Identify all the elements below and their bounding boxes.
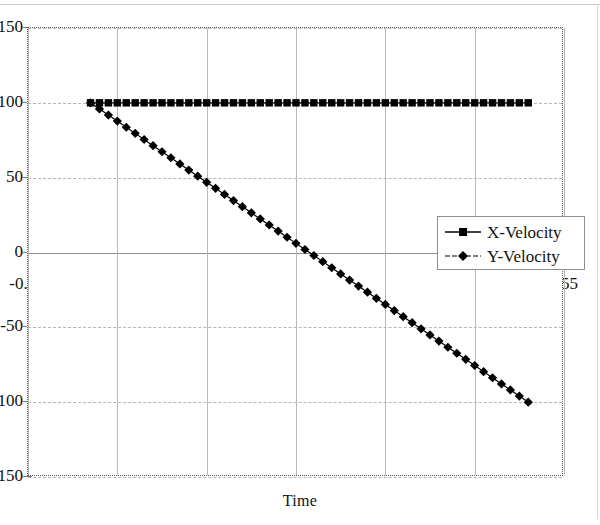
series-marker-square [105,99,112,106]
series-marker-diamond [122,123,131,132]
legend-marker-diamond-icon [443,248,483,264]
series-marker-diamond [408,318,417,327]
series-marker-diamond [300,245,309,254]
series-marker-square [471,99,478,106]
series-marker-square [114,99,121,106]
series-marker-diamond [184,165,193,174]
series-marker-square [257,99,264,106]
series-marker-square [391,99,398,106]
series-marker-diamond [345,275,354,284]
series-marker-diamond [256,214,265,223]
series-marker-square [337,99,344,106]
series-marker-diamond [461,355,470,364]
series-marker-square [132,99,139,106]
series-marker-diamond [479,367,488,376]
series-marker-diamond [336,269,345,278]
series-marker-diamond [291,239,300,248]
legend-item: X-Velocity [443,220,579,244]
series-marker-diamond [220,190,229,199]
series-marker-diamond [399,312,408,321]
series-marker-square [319,99,326,106]
series-marker-square [417,99,424,106]
series-marker-square [444,99,451,106]
series-marker-square [194,99,201,106]
series-marker-diamond [148,141,157,150]
series-marker-diamond [175,159,184,168]
series-marker-square [149,99,156,106]
series-marker-diamond [202,178,211,187]
legend-marker-square-icon [443,224,483,240]
series-marker-square [462,99,469,106]
series-marker-square [346,99,353,106]
series-marker-square [239,99,246,106]
series-marker-diamond [381,300,390,309]
series-marker-diamond [274,227,283,236]
series-marker-diamond [309,251,318,260]
series-marker-square [516,99,523,106]
series-marker-diamond [363,288,372,297]
series-marker-square [212,99,219,106]
series-marker-diamond [390,306,399,315]
series-marker-diamond [443,343,452,352]
series-marker-square [248,99,255,106]
series-marker-diamond [247,208,256,217]
series-marker-square [185,99,192,106]
series-marker-square [123,99,130,106]
legend-label-y-velocity: Y-Velocity [487,248,560,265]
series-marker-square [382,99,389,106]
series-marker-diamond [318,257,327,266]
series-marker-square [176,99,183,106]
series-marker-square [355,99,362,106]
series-marker-square [435,99,442,106]
series-marker-diamond [434,337,443,346]
series-marker-square [525,99,532,106]
series-marker-square [310,99,317,106]
series-marker-square [400,99,407,106]
series-marker-square [221,99,228,106]
series-marker-square [167,99,174,106]
series-marker-diamond [211,184,220,193]
series-marker-diamond [238,202,247,211]
series-marker-diamond [140,135,149,144]
series-marker-diamond [452,349,461,358]
series-marker-square [480,99,487,106]
series-marker-diamond [131,129,140,138]
series-marker-square [453,99,460,106]
series-marker-diamond [524,398,533,407]
series-marker-square [301,99,308,106]
series-marker-diamond [193,172,202,181]
series-marker-diamond [354,281,363,290]
series-marker-square [498,99,505,106]
legend-label-x-velocity: X-Velocity [487,224,562,241]
series-marker-diamond [470,361,479,370]
series-marker-square [328,99,335,106]
series-marker-diamond [488,373,497,382]
series-marker-diamond [416,324,425,333]
series-marker-diamond [265,220,274,229]
series-marker-square [283,99,290,106]
series-marker-diamond [113,116,122,125]
series-marker-square [274,99,281,106]
chart-legend: X-Velocity Y-Velocity [437,216,585,270]
series-marker-square [140,99,147,106]
series-marker-square [292,99,299,106]
series-marker-square [426,99,433,106]
series-marker-square [158,99,165,106]
series-marker-diamond [166,153,175,162]
gridline-horizontal [28,477,562,478]
series-marker-diamond [229,196,238,205]
series-marker-square [373,99,380,106]
x-axis-title: Time [0,492,600,510]
chart-figure: 150100500-50-100-150 -0.050.050.150.250.… [0,0,600,525]
series-marker-diamond [506,385,515,394]
series-marker-diamond [515,391,524,400]
series-marker-square [489,99,496,106]
series-marker-square [266,99,273,106]
series-marker-square [230,99,237,106]
legend-item: Y-Velocity [443,244,579,268]
plot-area: X-Velocity Y-Velocity [27,27,563,476]
series-marker-diamond [327,263,336,272]
series-marker-diamond [104,111,113,120]
series-marker-diamond [372,294,381,303]
series-marker-square [203,99,210,106]
